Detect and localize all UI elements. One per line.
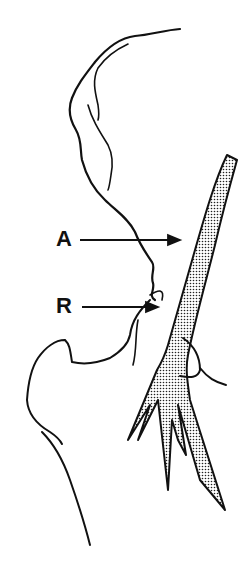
anatomical-illustration — [0, 0, 249, 567]
label-arrows — [80, 235, 180, 312]
label-a: A — [56, 228, 72, 250]
upper-contour — [70, 29, 180, 300]
vessel — [128, 155, 237, 510]
label-r: R — [56, 295, 72, 317]
